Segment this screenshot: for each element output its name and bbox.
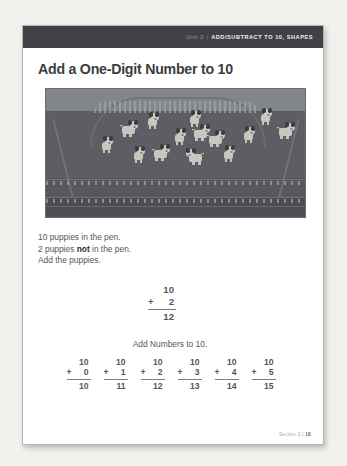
prose-line-1: 10 puppies in the pen. <box>38 232 323 244</box>
puppy <box>259 109 275 122</box>
pen-rail-bar-mid <box>46 197 305 198</box>
prose-emphasis-not: not <box>77 244 90 254</box>
practice-addend-row: + 1 <box>104 367 128 380</box>
practice-problem: 10 + 3 13 <box>178 357 202 392</box>
workbook-page: Unit 2 | ADD/SUBTRACT TO 10, SHAPES Add … <box>22 25 324 445</box>
practice-problem: 10 + 0 10 <box>67 357 91 392</box>
vertical-problem: 10 + 2 12 <box>148 284 176 323</box>
practice-operator: + <box>67 367 77 378</box>
practice-sum[interactable]: 13 <box>178 380 202 392</box>
unit-separator: | <box>207 34 208 40</box>
practice-problem-row: 10 + 0 10 10 + 1 11 10 + 2 12 10 <box>23 357 323 392</box>
puppy <box>242 127 258 140</box>
practice-problem: 10 + 5 15 <box>252 357 276 392</box>
puppy <box>122 121 138 134</box>
footer-page-number: 18 <box>305 432 311 437</box>
practice-addend-2: 0 <box>84 367 89 378</box>
practice-addend-row: + 4 <box>215 367 239 380</box>
prose-line-2-before: 2 puppies <box>38 244 77 254</box>
puppy <box>186 149 202 162</box>
puppies-in-pen-photo <box>45 88 306 218</box>
practice-addend-row: + 5 <box>252 367 276 380</box>
practice-addend-1: 10 <box>215 357 239 368</box>
practice-operator: + <box>215 367 225 378</box>
practice-addend-2: 5 <box>269 367 274 378</box>
practice-addend-1: 10 <box>252 357 276 368</box>
practice-sum[interactable]: 15 <box>252 380 276 392</box>
practice-addend-1: 10 <box>67 357 91 368</box>
worked-sum: 12 <box>148 310 176 323</box>
pen-dome-mesh <box>94 101 258 113</box>
pen-rail-bar-bottom <box>46 206 305 207</box>
practice-sum[interactable]: 12 <box>141 380 165 392</box>
practice-operator: + <box>252 367 262 378</box>
puppy <box>279 123 295 136</box>
prose-line-3: Add the puppies. <box>38 255 323 267</box>
practice-operator: + <box>178 367 188 378</box>
practice-sum[interactable]: 10 <box>67 380 91 392</box>
pen-wire-mesh-upper <box>46 181 305 185</box>
prose-line-2: 2 puppies not in the pen. <box>38 244 323 256</box>
puppy <box>188 111 204 124</box>
practice-sum[interactable]: 11 <box>104 380 128 392</box>
practice-addend-2: 2 <box>158 367 163 378</box>
puppy <box>222 146 238 159</box>
puppy <box>132 147 148 160</box>
worked-addend-2: 2 <box>169 296 174 308</box>
worked-example: 10 + 2 12 <box>23 284 323 323</box>
worked-operator: + <box>148 296 159 308</box>
puppy <box>146 113 162 126</box>
page-footer: Section 3 | 18 <box>279 432 311 437</box>
practice-operator: + <box>104 367 114 378</box>
practice-heading: Add Numbers to 10. <box>23 339 323 349</box>
practice-addend-1: 10 <box>141 357 165 368</box>
practice-addend-row: + 2 <box>141 367 165 380</box>
practice-addend-row: + 0 <box>67 367 91 380</box>
practice-addend-1: 10 <box>178 357 202 368</box>
puppy <box>154 145 170 158</box>
practice-addend-2: 3 <box>195 367 200 378</box>
pen-wire-mesh-lower <box>46 199 305 203</box>
worked-addend-1: 10 <box>148 284 176 296</box>
pen-rail-bar-top <box>46 179 305 180</box>
lesson-prose: 10 puppies in the pen. 2 puppies not in … <box>38 232 323 267</box>
practice-sum[interactable]: 14 <box>215 380 239 392</box>
unit-number-label: Unit 2 <box>186 34 203 40</box>
practice-addend-2: 4 <box>232 367 237 378</box>
puppy <box>100 137 116 150</box>
prose-line-2-after: in the pen. <box>90 244 131 254</box>
unit-header-band: Unit 2 | ADD/SUBTRACT TO 10, SHAPES <box>23 26 323 48</box>
footer-section-label: Section 3 <box>279 432 301 437</box>
page-title: Add a One-Digit Number to 10 <box>38 61 323 77</box>
practice-problem: 10 + 4 14 <box>215 357 239 392</box>
practice-operator: + <box>141 367 151 378</box>
worked-addend-row: + 2 <box>148 296 176 310</box>
practice-problem: 10 + 1 11 <box>104 357 128 392</box>
puppy <box>209 131 225 144</box>
footer-separator: | <box>302 432 303 437</box>
puppy <box>173 129 189 142</box>
practice-addend-2: 1 <box>121 367 126 378</box>
unit-title-label: ADD/SUBTRACT TO 10, SHAPES <box>211 34 313 40</box>
practice-problem: 10 + 2 12 <box>141 357 165 392</box>
practice-addend-row: + 3 <box>178 367 202 380</box>
practice-addend-1: 10 <box>104 357 128 368</box>
